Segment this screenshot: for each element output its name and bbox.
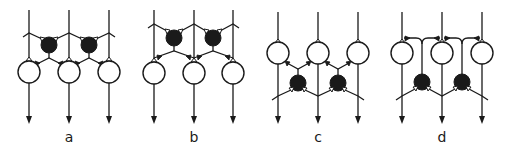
inhibitory-cell xyxy=(166,30,182,46)
panel-d xyxy=(391,12,493,124)
panel-label-a: a xyxy=(59,129,79,145)
principal-cell xyxy=(307,42,329,64)
principal-cell xyxy=(98,61,120,83)
arrow-icon xyxy=(275,116,281,124)
principal-cell xyxy=(431,42,453,64)
panel-c xyxy=(267,12,369,124)
inhibitory-cell xyxy=(41,37,57,53)
arrow-icon xyxy=(106,116,112,124)
principal-cell xyxy=(347,42,369,64)
arrow-icon xyxy=(151,116,157,124)
principal-cell xyxy=(222,62,244,84)
arrow-icon xyxy=(355,116,361,124)
panel-label-d: d xyxy=(432,129,452,145)
principal-cell xyxy=(183,62,205,84)
principal-cell xyxy=(143,62,165,84)
principal-cell xyxy=(18,61,40,83)
principal-cell xyxy=(58,61,80,83)
arrow-icon xyxy=(230,116,236,124)
principal-cell xyxy=(267,42,289,64)
panel-b xyxy=(143,10,244,124)
arrow-icon xyxy=(26,116,32,124)
arrow-icon xyxy=(439,116,445,124)
principal-cell xyxy=(391,42,413,64)
panel-label-b: b xyxy=(184,129,204,145)
inhibitory-cell xyxy=(205,30,221,46)
arrow-icon xyxy=(66,116,72,124)
panel-a xyxy=(18,10,120,124)
panel-label-c: c xyxy=(308,129,328,145)
principal-cell xyxy=(471,42,493,64)
arrow-icon xyxy=(479,116,485,124)
inhibitory-cell xyxy=(81,37,97,53)
arrow-icon xyxy=(399,116,405,124)
arrow-icon xyxy=(191,116,197,124)
arrow-icon xyxy=(315,116,321,124)
